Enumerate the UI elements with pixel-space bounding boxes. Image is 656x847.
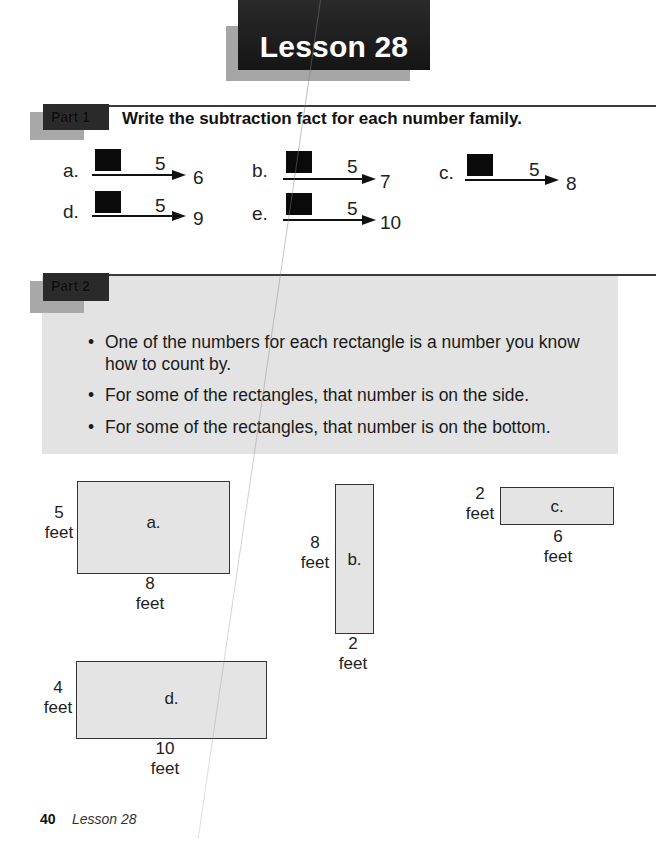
bottom-dimension: 10feet xyxy=(135,739,195,779)
arrow-right-icon xyxy=(362,174,376,184)
bullet-item-continuation: how to count by. xyxy=(105,353,615,375)
arrow-right-icon xyxy=(172,211,186,221)
arrow-right-icon xyxy=(362,215,376,225)
bottom-dimension: 2feet xyxy=(325,634,381,674)
part2-rule xyxy=(108,274,656,276)
family-big-number: 6 xyxy=(193,167,204,189)
family-label: d. xyxy=(63,201,79,223)
bottom-dimension: 8feet xyxy=(120,574,180,614)
answer-box[interactable] xyxy=(95,191,121,213)
family-label: b. xyxy=(252,160,268,182)
bullet-dot-icon: • xyxy=(88,384,94,406)
family-big-number: 7 xyxy=(380,171,391,193)
family-label: c. xyxy=(439,162,454,184)
family-small-number: 5 xyxy=(347,156,358,178)
footer-lesson-title: Lesson 28 xyxy=(72,811,137,827)
family-small-number: 5 xyxy=(529,159,540,181)
rectangle-label: d. xyxy=(76,689,267,709)
bullet-dot-icon: • xyxy=(88,331,94,353)
rectangle-label: b. xyxy=(335,550,374,570)
side-dimension: 4feet xyxy=(40,678,76,718)
bottom-dimension: 6feet xyxy=(530,527,586,567)
side-dimension: 8feet xyxy=(297,533,333,573)
bullet-dot-icon: • xyxy=(88,416,94,438)
arrow-right-icon xyxy=(545,175,559,185)
arrow-line xyxy=(283,219,363,221)
answer-box[interactable] xyxy=(286,151,312,173)
answer-box[interactable] xyxy=(467,154,493,176)
family-small-number: 5 xyxy=(155,195,166,217)
bullet-item: • For some of the rectangles, that numbe… xyxy=(105,384,615,406)
arrow-line xyxy=(92,174,172,176)
part1-tag: Part 1 xyxy=(43,104,109,130)
family-big-number: 8 xyxy=(566,173,577,195)
part1-rule xyxy=(108,105,656,107)
arrow-line xyxy=(465,179,545,181)
part1-instruction: Write the subtraction fact for each numb… xyxy=(122,109,522,129)
family-big-number: 9 xyxy=(193,208,204,230)
bullet-item: • One of the numbers for each rectangle … xyxy=(105,331,615,353)
rectangle-label: a. xyxy=(77,513,230,533)
answer-box[interactable] xyxy=(95,149,121,171)
arrow-right-icon xyxy=(172,170,186,180)
family-big-number: 10 xyxy=(380,212,401,234)
family-small-number: 5 xyxy=(155,153,166,175)
family-label: a. xyxy=(63,160,79,182)
rectangle-label: c. xyxy=(500,497,614,517)
page-number: 40 xyxy=(40,811,56,827)
side-dimension: 2feet xyxy=(461,484,499,524)
family-small-number: 5 xyxy=(347,198,358,220)
arrow-line xyxy=(283,178,363,180)
side-dimension: 5feet xyxy=(40,503,78,543)
bullet-item: • For some of the rectangles, that numbe… xyxy=(105,416,615,438)
lesson-title: Lesson 28 xyxy=(238,30,430,64)
family-label: e. xyxy=(252,203,268,225)
part2-tag: Part 2 xyxy=(43,273,109,301)
arrow-line xyxy=(92,215,172,217)
